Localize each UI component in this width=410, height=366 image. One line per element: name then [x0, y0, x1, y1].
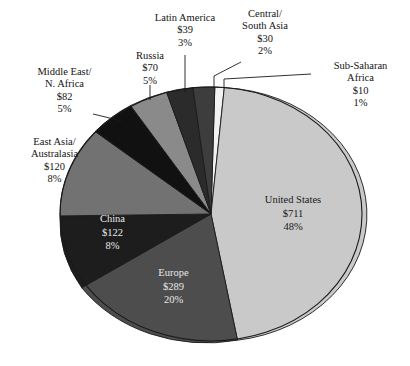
label-east-asia-australasia-name-line1: East Asia/ — [2, 136, 107, 148]
label-russia: Russia $70 5% — [110, 50, 190, 87]
leader-line-sub-saharan-africa — [224, 74, 311, 88]
label-sub-saharan-africa-percent: 1% — [313, 97, 408, 109]
label-east-asia-australasia-value: $120 — [2, 161, 107, 173]
label-east-asia-australasia: East Asia/ Australasia $120 8% — [2, 136, 107, 186]
label-sub-saharan-africa-value: $10 — [313, 85, 408, 97]
label-united-states-name: United States — [238, 193, 348, 207]
label-sub-saharan-africa: Sub-Saharan Africa $10 1% — [313, 60, 408, 110]
label-central-south-asia: Central/ South Asia $30 2% — [205, 8, 325, 58]
label-middle-east-n-africa-percent: 5% — [12, 103, 117, 115]
pie-chart: Latin America $39 3% Central/ South Asia… — [0, 0, 410, 366]
label-middle-east-n-africa-name-line1: Middle East/ — [12, 66, 117, 78]
label-united-states: United States $711 48% — [238, 193, 348, 234]
label-china: China $122 8% — [75, 212, 150, 253]
label-russia-percent: 5% — [110, 75, 190, 87]
label-central-south-asia-name-line1: Central/ — [205, 8, 325, 20]
label-east-asia-australasia-percent: 8% — [2, 173, 107, 185]
label-united-states-value: $711 — [238, 207, 348, 221]
label-middle-east-n-africa: Middle East/ N. Africa $82 5% — [12, 66, 117, 116]
leader-line-central-south-asia — [214, 62, 241, 88]
label-europe: Europe $289 20% — [131, 266, 216, 307]
label-middle-east-n-africa-value: $82 — [12, 91, 117, 103]
label-russia-value: $70 — [110, 62, 190, 74]
label-middle-east-n-africa-name-line2: N. Africa — [12, 78, 117, 90]
label-europe-value: $289 — [131, 280, 216, 294]
label-europe-name: Europe — [131, 266, 216, 280]
label-europe-percent: 20% — [131, 293, 216, 307]
label-sub-saharan-africa-name-line2: Africa — [313, 72, 408, 84]
label-russia-name: Russia — [110, 50, 190, 62]
label-united-states-percent: 48% — [238, 220, 348, 234]
label-central-south-asia-percent: 2% — [205, 45, 325, 57]
label-china-percent: 8% — [75, 239, 150, 253]
label-china-value: $122 — [75, 226, 150, 240]
label-china-name: China — [75, 212, 150, 226]
label-central-south-asia-value: $30 — [205, 33, 325, 45]
label-east-asia-australasia-name-line2: Australasia — [2, 148, 107, 160]
label-central-south-asia-name-line2: South Asia — [205, 20, 325, 32]
label-sub-saharan-africa-name-line1: Sub-Saharan — [313, 60, 408, 72]
